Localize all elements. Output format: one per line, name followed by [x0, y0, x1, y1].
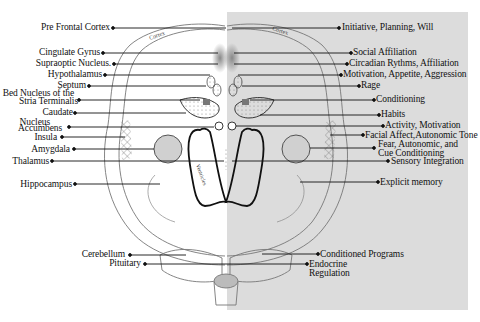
label-explicit-memory: Explicit memory	[380, 178, 443, 187]
label-hippocampus: Hippocampus	[20, 180, 72, 189]
label-rage: Rage	[361, 81, 380, 90]
label-motivation-appetite: Motivation, Appetite, Aggression	[343, 70, 466, 79]
label-supraoptic-nucleus: Supraoptic Nucleus.	[36, 59, 111, 68]
caudate-shapes	[180, 98, 274, 130]
label-activity-motivation: Activity, Motivation	[385, 121, 461, 130]
label-initiative: Initiative, Planning, Will	[342, 23, 433, 32]
label-bed-nucleus-line2: Stria Terminalis	[19, 97, 78, 106]
ventricles-label: Ventricles	[195, 163, 208, 186]
label-thalamus: Thalamus	[12, 157, 49, 166]
label-pre-frontal-cortex: Pre Frontal Cortex	[41, 23, 110, 32]
label-social-affiliation: Social Affiliation	[353, 48, 417, 57]
label-pituitary: Pituitary	[109, 259, 141, 268]
label-caudate: Caudate	[43, 108, 73, 117]
label-insula: Insula	[34, 133, 57, 142]
insula-left-shape	[120, 120, 132, 160]
label-cingulate-gyrus: Cingulate Gyrus	[39, 48, 100, 57]
label-circadian: Circadian Rythms, Affiliation	[349, 59, 459, 68]
septum-shapes	[207, 76, 242, 96]
label-conditioning: Conditioning	[376, 95, 425, 104]
label-amygdala: Amygdala	[31, 145, 70, 154]
label-sensory-integration: Sensory Integration	[391, 157, 464, 166]
thalamus-midline	[223, 148, 229, 170]
label-habits: Habits	[381, 110, 405, 119]
label-conditioned-programs: Conditioned Programs	[320, 250, 404, 259]
amygdala-left-shape	[154, 135, 182, 163]
label-hypothalamus: Hypothalamus	[48, 70, 102, 79]
label-endocrine-line2: Regulation	[309, 269, 350, 278]
cortex-left-label: Cortex	[148, 30, 165, 41]
